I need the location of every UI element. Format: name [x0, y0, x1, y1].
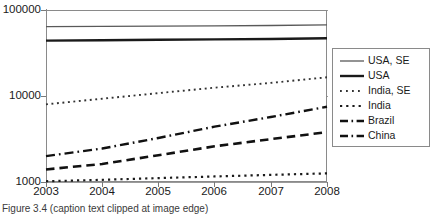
chart-legend: USA, SE USA India, SE India Brazil — [332, 48, 430, 147]
series-line-india — [46, 173, 327, 181]
legend-label-china: China — [368, 130, 395, 141]
legend-label-india: India — [368, 100, 391, 111]
legend-swatch-brazil — [339, 115, 365, 127]
x-tick-2008: 2008 — [299, 186, 355, 198]
legend-item-brazil: Brazil — [333, 113, 429, 128]
legend-item-usa-se: USA, SE — [333, 53, 429, 68]
series-line-india-se — [46, 77, 327, 104]
y-tick-10000: 10000 — [0, 96, 41, 97]
legend-item-china: China — [333, 128, 429, 143]
series-line-usa-se — [46, 25, 327, 27]
x-tick-2006: 2006 — [186, 186, 242, 198]
y-tick-100000: 100000 — [0, 10, 41, 11]
legend-swatch-india — [339, 100, 365, 112]
legend-label-india-se: India, SE — [368, 85, 411, 96]
legend-item-usa: USA — [333, 68, 429, 83]
legend-label-usa-se: USA, SE — [368, 55, 409, 66]
legend-swatch-usa-se — [339, 55, 365, 67]
chart-figure: 100000 10000 1000 2003 2004 2005 2006 20… — [0, 0, 434, 214]
legend-item-india: India — [333, 98, 429, 113]
legend-swatch-india-se — [339, 85, 365, 97]
figure-caption: Figure 3.4 (caption text clipped at imag… — [2, 203, 432, 214]
x-tick-2004: 2004 — [74, 186, 130, 198]
x-tick-2007: 2007 — [243, 186, 299, 198]
legend-swatch-china — [339, 130, 365, 142]
x-tick-2005: 2005 — [130, 186, 186, 198]
legend-label-usa: USA — [368, 70, 390, 81]
x-tick-2003: 2003 — [18, 186, 74, 198]
series-line-brazil — [46, 107, 327, 156]
gridline-1000 — [46, 182, 328, 183]
y-tick-1000: 1000 — [0, 182, 41, 183]
data-series-layer — [46, 10, 327, 182]
legend-item-india-se: India, SE — [333, 83, 429, 98]
series-line-usa — [46, 38, 327, 40]
legend-swatch-usa — [339, 70, 365, 82]
legend-label-brazil: Brazil — [368, 115, 394, 126]
